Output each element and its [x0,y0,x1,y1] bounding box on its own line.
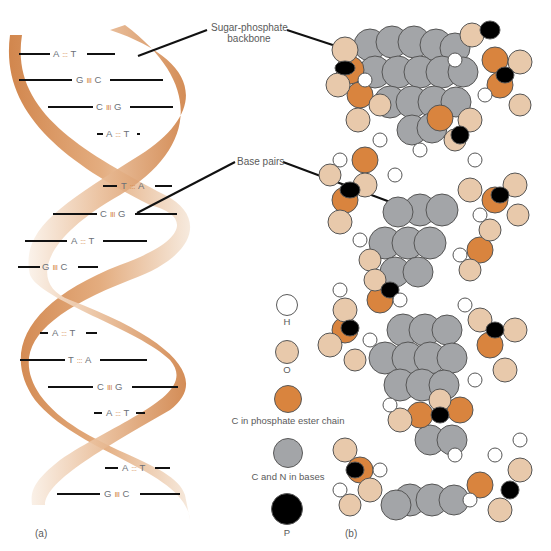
hydrogen-bond-icon: ::: [112,130,123,139]
base-pair: A:::T [71,235,94,247]
dna-figure: A:::T GIIIC CIIIG A:::T T:::A CIIIG A:::… [0,0,551,551]
phosphorus-atom-icon [271,493,303,525]
hydrogen-bond-icon: ::: [128,464,139,473]
hydrogen-atom-icon [276,294,298,316]
base-pair: T:::A [68,354,91,366]
hydrogen-bond-icon: ::: [58,329,69,338]
backbone-callout: Sugar-phosphate backbone [211,22,287,44]
base-pair: CIIIG [100,208,125,220]
oxygen-atom-icon [275,340,299,364]
base-letter: T [140,462,146,473]
callout-text: Sugar-phosphate [211,22,288,33]
hydrogen-bond-icon: ::: [74,356,85,365]
legend-item-phosphorus: P [262,493,312,538]
base-pair: GIIIC [76,74,101,86]
base-pair: A:::T [122,462,145,474]
legend-label: P [262,527,312,538]
base-letter: T [70,327,76,338]
base-letter: T [71,48,77,59]
base-letter: C [100,208,107,219]
base-pair: GIIIC [42,261,67,273]
legend-label: C in phosphate ester chain [218,415,358,426]
base-letter: C [61,261,68,272]
base-pair: A:::T [106,128,129,140]
hydrogen-bond-icon: III [111,490,122,499]
base-letter: G [118,208,125,219]
hydrogen-bond-icon: ::: [112,409,123,418]
base-pair: GIIIC [104,488,129,500]
panel-a-label: (a) [35,528,47,539]
hydrogen-bond-icon: III [103,103,114,112]
base-letter: C [96,101,103,112]
callout-text: backbone [227,33,270,44]
legend-label: O [262,364,312,375]
base-letter: T [68,354,74,365]
base-pair: T:::A [121,180,144,192]
base-pair: CIIIG [96,101,121,113]
legend-item-carbon-chain: C in phosphate ester chain [218,385,358,426]
base-letter: C [97,381,104,392]
legend-label: H [262,316,312,327]
base-pair: A:::T [106,407,129,419]
base-pair: A:::T [53,48,76,60]
base-letter: T [89,235,95,246]
hydrogen-bond-icon: III [49,263,60,272]
base-letter: A [138,180,144,191]
base-letter: C [123,488,130,499]
hydrogen-bond-icon: ::: [59,50,70,59]
base-letter: T [124,407,130,418]
base-letter: C [95,74,102,85]
hydrogen-bond-icon: ::: [77,237,88,246]
legend-item-oxygen: O [262,340,312,375]
legend-item-base-atoms: C and N in bases [228,438,348,482]
legend-item-hydrogen: H [262,294,312,327]
hydrogen-bond-icon: ::: [127,182,138,191]
base-letter: G [114,101,121,112]
legend-label: C and N in bases [228,471,348,482]
panel-b-label: (b) [345,528,357,539]
base-pair: CIIIG [97,381,122,393]
base-pairs-callout: Base pairs [237,156,284,167]
carbon-chain-atom-icon [274,385,302,413]
base-pair: A:::T [52,327,75,339]
hydrogen-bond-icon: III [107,210,118,219]
hydrogen-bond-icon: III [83,76,94,85]
base-letter: A [85,354,91,365]
base-letter: T [124,128,130,139]
base-atom-icon [273,438,303,468]
base-letter: T [121,180,127,191]
base-letter: G [115,381,122,392]
hydrogen-bond-icon: III [104,383,115,392]
